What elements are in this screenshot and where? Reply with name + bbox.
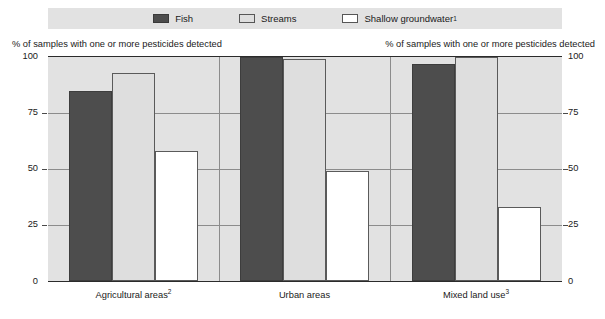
ytick-right-25: 25 bbox=[568, 220, 578, 229]
category-footnote-mixed: 3 bbox=[505, 288, 509, 295]
category-footnote-agricultural: 2 bbox=[168, 288, 172, 295]
legend-footnote-marker: 1 bbox=[453, 15, 457, 22]
bar-urban-streams[interactable] bbox=[283, 59, 326, 281]
legend-swatch-groundwater-icon bbox=[342, 14, 358, 23]
tickmark-left-75 bbox=[42, 113, 47, 114]
category-label-agricultural-areas: Agricultural areas2 bbox=[48, 288, 219, 300]
ytick-left-50: 50 bbox=[0, 164, 38, 173]
ytick-right-100: 100 bbox=[568, 52, 584, 61]
ytick-left-75: 75 bbox=[0, 108, 38, 117]
tickmark-right-75 bbox=[563, 113, 568, 114]
bar-mixed-shallow-groundwater[interactable] bbox=[498, 207, 541, 281]
category-text-urban: Urban areas bbox=[279, 290, 330, 300]
tickmark-left-25 bbox=[42, 225, 47, 226]
legend-label-streams: Streams bbox=[261, 13, 296, 24]
tickmark-right-50 bbox=[563, 169, 568, 170]
legend-item-streams: Streams bbox=[239, 13, 296, 24]
right-axis-caption: % of samples with one or more pesticides… bbox=[385, 39, 595, 49]
legend-item-shallow-groundwater: Shallow groundwater1 bbox=[342, 13, 456, 24]
bar-urban-fish[interactable] bbox=[240, 57, 283, 281]
left-axis-caption: % of samples with one or more pesticides… bbox=[12, 39, 222, 49]
category-text-mixed: Mixed land use bbox=[443, 290, 506, 300]
plot-area bbox=[48, 57, 562, 281]
legend-label-shallow-groundwater: Shallow groundwater bbox=[364, 13, 453, 24]
ytick-right-75: 75 bbox=[568, 108, 578, 117]
legend-item-fish: Fish bbox=[153, 13, 193, 24]
ytick-right-50: 50 bbox=[568, 164, 578, 173]
bar-mixed-fish[interactable] bbox=[412, 64, 455, 281]
bar-mixed-streams[interactable] bbox=[455, 57, 498, 281]
bar-agricultural-shallow-groundwater[interactable] bbox=[155, 151, 198, 281]
chart-legend: Fish Streams Shallow groundwater1 bbox=[48, 8, 562, 29]
bar-group-agricultural-areas bbox=[48, 57, 219, 281]
legend-swatch-fish-icon bbox=[153, 14, 169, 23]
pesticide-detection-bar-chart: Fish Streams Shallow groundwater1 % of s… bbox=[0, 0, 605, 319]
bar-agricultural-fish[interactable] bbox=[69, 91, 112, 281]
axis-line-bottom bbox=[48, 281, 562, 282]
ytick-left-0: 0 bbox=[0, 277, 38, 286]
tickmark-right-25 bbox=[563, 225, 568, 226]
category-label-urban-areas: Urban areas bbox=[219, 288, 390, 300]
legend-label-fish: Fish bbox=[175, 13, 193, 24]
bar-group-mixed-land-use bbox=[390, 57, 562, 281]
category-label-mixed-land-use: Mixed land use3 bbox=[390, 288, 562, 300]
bar-urban-shallow-groundwater[interactable] bbox=[326, 171, 369, 281]
tickmark-left-50 bbox=[42, 169, 47, 170]
ytick-left-100: 100 bbox=[0, 52, 38, 61]
legend-swatch-streams-icon bbox=[239, 14, 255, 23]
category-text-agricultural: Agricultural areas bbox=[96, 290, 168, 300]
bar-agricultural-streams[interactable] bbox=[112, 73, 155, 281]
ytick-left-25: 25 bbox=[0, 220, 38, 229]
bar-group-urban-areas bbox=[219, 57, 390, 281]
ytick-right-0: 0 bbox=[568, 277, 573, 286]
